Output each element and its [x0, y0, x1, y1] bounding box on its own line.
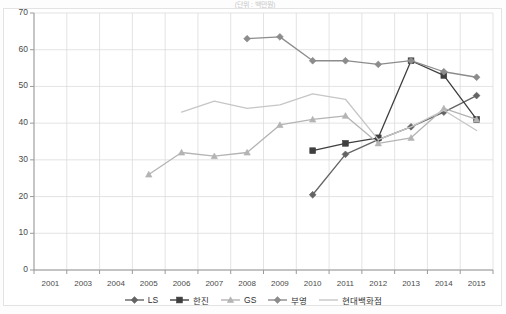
legend-item-1[interactable]: 한진	[169, 294, 209, 306]
data-point-marker	[342, 57, 349, 64]
y-tick-label: 40	[8, 118, 28, 127]
data-point-marker	[244, 35, 251, 42]
data-point-marker	[131, 297, 138, 304]
gridlines-group	[34, 13, 493, 270]
legend-label: LS	[148, 295, 158, 305]
legend-item-2[interactable]: GS	[220, 295, 256, 305]
chart-legend: LS한진GS부영현대백화점	[0, 291, 506, 309]
y-tick-label: 20	[8, 192, 28, 201]
diamond-icon	[267, 295, 288, 305]
chart-container: (단위 : 백만원) 706050403020100 2001200320042…	[0, 0, 506, 314]
y-tick-label: 30	[8, 155, 28, 164]
legend-label: 부영	[291, 294, 307, 306]
series-GS	[146, 105, 480, 177]
y-tick-label: 10	[8, 228, 28, 237]
legend-label: GS	[244, 295, 256, 305]
chart-canvas	[4, 9, 501, 305]
data-point-marker	[473, 92, 480, 99]
legend-item-3[interactable]: 부영	[267, 294, 307, 306]
diamond-icon	[124, 295, 145, 305]
data-point-marker	[310, 148, 316, 154]
data-point-marker	[274, 297, 281, 304]
y-tick-label: 0	[8, 265, 28, 274]
data-point-marker	[177, 297, 183, 303]
y-tick-label: 50	[8, 81, 28, 90]
legend-label: 한진	[193, 294, 209, 306]
line-icon	[318, 295, 339, 305]
y-tick-label: 70	[8, 8, 28, 17]
triangle-icon	[220, 295, 241, 305]
x-tick-label: 2015	[457, 279, 497, 288]
data-series-group	[146, 33, 480, 198]
data-point-marker	[375, 61, 382, 68]
data-point-marker	[343, 140, 349, 146]
chart-plot-frame: 706050403020100 200120032004200520062007…	[3, 8, 502, 306]
legend-item-4[interactable]: 현대백화점	[318, 294, 382, 306]
legend-label: 현대백화점	[342, 294, 382, 306]
square-icon	[169, 295, 190, 305]
y-tick-label: 60	[8, 45, 28, 54]
data-point-marker	[473, 74, 480, 81]
legend-item-0[interactable]: LS	[124, 295, 158, 305]
data-point-marker	[146, 171, 152, 177]
